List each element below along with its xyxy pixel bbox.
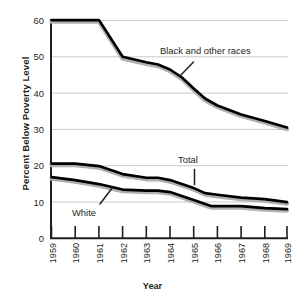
annotation-label-white: White <box>72 207 96 218</box>
x-tick-label-1965: 1965 <box>190 243 200 263</box>
x-tick-label-1968: 1968 <box>261 243 271 263</box>
x-axis-title: Year <box>0 281 305 291</box>
x-tick-label-1959: 1959 <box>48 243 58 263</box>
y-tick-label-10: 10 <box>34 197 44 208</box>
y-tick-label-0: 0 <box>39 233 44 244</box>
y-tick-labels: 60 50 40 30 20 10 0 <box>34 15 44 244</box>
series-line-shadow <box>52 22 288 130</box>
series-black-and-other-races <box>52 20 288 129</box>
y-tick-label-20: 20 <box>34 160 44 171</box>
x-tick-label-1967: 1967 <box>237 243 247 263</box>
x-tick-label-1963: 1963 <box>142 243 152 263</box>
poverty-line-chart: Percent Below Poverty Level <box>0 0 305 297</box>
series-line <box>52 20 288 128</box>
x-tick-label-1960: 1960 <box>71 243 81 263</box>
x-tick-label-1961: 1961 <box>95 243 105 263</box>
x-tick-label-1962: 1962 <box>119 243 129 263</box>
y-tick-label-30: 30 <box>34 124 44 135</box>
leader-line-black-and-other-races <box>180 62 194 76</box>
x-tick-label-1969: 1969 <box>283 243 293 263</box>
y-tick-label-50: 50 <box>34 51 44 62</box>
annotation-label-black-and-other-races: Black and other races <box>160 45 251 56</box>
x-tick-labels: 1959 1960 1961 1962 1963 1964 1965 1966 … <box>48 243 294 263</box>
x-tick-label-1964: 1964 <box>166 243 176 263</box>
y-tick-label-40: 40 <box>34 88 44 99</box>
y-tick-label-60: 60 <box>34 15 44 26</box>
annotation-label-total: Total <box>178 154 198 165</box>
x-tick-marks <box>52 226 288 238</box>
chart-plot-area: 60 50 40 30 20 10 0 1959 1960 1961 1962 … <box>0 0 305 297</box>
x-tick-label-1966: 1966 <box>213 243 223 263</box>
